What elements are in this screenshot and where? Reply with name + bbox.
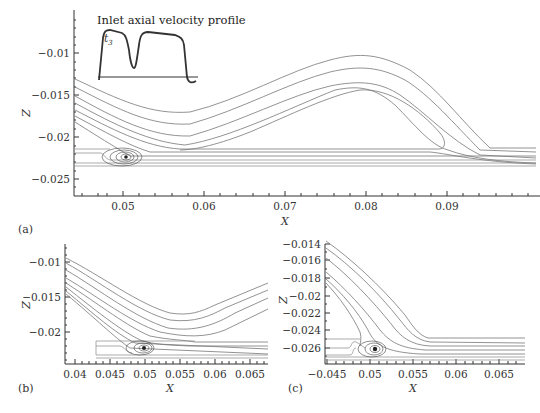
panel-b-xtick-6: 0.065 — [235, 368, 265, 380]
panel-c-ytick-2: −0.016 — [282, 254, 321, 266]
panel-b-xtick-3: 0.05 — [133, 368, 156, 380]
inset-title: Inlet axial velocity profile — [97, 13, 246, 27]
panel-b-label: (b) — [18, 382, 34, 395]
panel-b-xlabel: X — [165, 382, 175, 395]
panel-a-xtick-3: 0.07 — [273, 200, 296, 212]
panel-c-streamlines — [326, 241, 525, 360]
panel-c-xtick-2: 0.05 — [358, 368, 381, 380]
panel-b-ytick-3: −0.02 — [29, 326, 61, 338]
panel-a-x-ticks — [82, 191, 528, 196]
panel-b-xtick-5: 0.06 — [203, 368, 227, 380]
panel-c: −0.014 −0.016 −0.018 −0.02 −0.022 −0.024… — [276, 238, 525, 395]
panel-c-vortex — [358, 341, 386, 357]
panel-c-xtick-1: −0.045 — [308, 368, 347, 380]
panel-b-xtick-4: 0.055 — [165, 368, 195, 380]
panel-a-ytick-2: −0.015 — [31, 89, 70, 101]
panel-a-xtick-2: 0.06 — [192, 200, 216, 212]
panel-c-ylabel: Z — [276, 295, 289, 304]
panel-c-ytick-1: −0.014 — [282, 238, 321, 250]
inset-velocity-profile: Inlet axial velocity profile t3 — [97, 13, 246, 82]
panel-a-streamlines — [75, 55, 536, 166]
panel-b-ytick-1: −0.01 — [29, 256, 61, 268]
panel-b-xtick-1: 0.04 — [63, 368, 87, 380]
panel-a-ytick-3: −0.02 — [38, 131, 70, 143]
panel-c-ytick-3: −0.018 — [282, 272, 321, 284]
panel-a-label: (a) — [18, 223, 33, 236]
panel-c-xtick-4: 0.06 — [444, 368, 468, 380]
figure-canvas: −0.01 −0.015 −0.02 −0.025 0.05 0.06 0.07 — [0, 0, 540, 413]
panel-a-ylabel: Z — [19, 108, 32, 117]
panel-c-ytick-7: −0.026 — [282, 342, 321, 354]
panel-c-label: (c) — [288, 382, 303, 395]
panel-a-xtick-1: 0.05 — [111, 200, 134, 212]
panel-a-xlabel: X — [280, 215, 290, 228]
panel-c-xtick-5: 0.065 — [484, 368, 514, 380]
panel-b-streamlines — [66, 258, 268, 358]
panel-c-xtick-3: 0.055 — [398, 368, 428, 380]
panel-b-x-ticks — [75, 359, 264, 364]
panel-c-ytick-5: −0.022 — [282, 307, 321, 319]
panel-a: −0.01 −0.015 −0.02 −0.025 0.05 0.06 0.07 — [18, 10, 540, 236]
panel-b: −0.01 −0.015 −0.02 0.04 0.045 0.05 0.055… — [18, 244, 268, 395]
panel-b-ylabel: Z — [19, 300, 32, 309]
inset-profile-curve — [99, 30, 196, 82]
inset-time-tag: t3 — [104, 32, 113, 47]
panel-a-xtick-4: 0.08 — [354, 200, 377, 212]
panel-c-ytick-6: −0.024 — [282, 324, 321, 336]
panel-a-xtick-5: 0.09 — [435, 200, 458, 212]
panel-c-xlabel: X — [408, 382, 418, 395]
panel-a-ytick-1: −0.01 — [38, 47, 70, 59]
panel-c-ytick-4: −0.02 — [289, 290, 321, 302]
panel-a-ytick-4: −0.025 — [31, 173, 70, 185]
panel-b-xtick-2: 0.045 — [95, 368, 125, 380]
